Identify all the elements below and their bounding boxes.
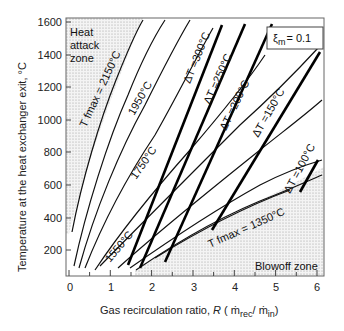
xi-legend-box: ξm= 0.1 — [267, 27, 323, 49]
label-1950: 1950°C — [125, 79, 154, 117]
svg-text:4: 4 — [232, 281, 238, 293]
svg-text:2: 2 — [149, 281, 155, 293]
svg-text:1600: 1600 — [38, 16, 62, 28]
chart: 1600 1400 1200 1000 800 600 400 200 0 1 … — [0, 0, 344, 331]
x-axis-title: Gas recirculation ratio, R ( ṁrec/ ṁin) — [100, 304, 279, 319]
svg-text:800: 800 — [44, 146, 62, 158]
heat-zone-line3: zone — [70, 52, 94, 64]
svg-text:1400: 1400 — [38, 49, 62, 61]
svg-text:1: 1 — [108, 281, 114, 293]
svg-text:6: 6 — [314, 281, 320, 293]
heat-zone-line2: attack — [70, 39, 100, 51]
svg-text:1000: 1000 — [38, 114, 62, 126]
label-dt300: ΔT =300°C — [181, 30, 212, 85]
svg-text:5: 5 — [273, 281, 279, 293]
label-dt200: ΔT =200°C — [217, 78, 252, 132]
svg-text:0: 0 — [67, 281, 73, 293]
label-dt250: ΔT =250°C — [201, 52, 234, 106]
svg-text:3: 3 — [191, 281, 197, 293]
blowoff-zone-label: Blowoff zone — [255, 260, 318, 272]
y-axis-title: Temperature at the heat exchanger exit, … — [16, 62, 28, 272]
svg-text:400: 400 — [44, 212, 62, 224]
svg-text:600: 600 — [44, 179, 62, 191]
svg-text:1200: 1200 — [38, 81, 62, 93]
label-dt150: ΔT =150°C — [249, 86, 286, 139]
svg-text:200: 200 — [44, 244, 62, 256]
x-tick-labels: 0 1 2 3 4 5 6 — [67, 281, 320, 293]
y-tick-labels: 1600 1400 1200 1000 800 600 400 200 — [38, 16, 62, 256]
label-1750: 1750°C — [128, 144, 159, 181]
heat-zone-line1: Heat — [70, 26, 93, 38]
